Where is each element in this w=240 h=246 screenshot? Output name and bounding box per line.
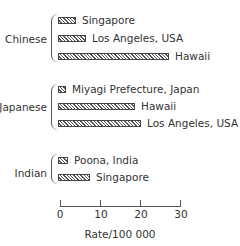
x-tick <box>140 200 141 206</box>
bar <box>58 103 135 110</box>
bar-label: Poona, India <box>74 154 138 166</box>
bar-label: Singapore <box>96 171 149 183</box>
bar <box>58 86 66 93</box>
group-label: Indian <box>15 167 47 179</box>
bar-label: Hawaii <box>175 50 210 62</box>
group-label: Chinese <box>5 33 47 45</box>
x-axis-line <box>60 206 181 207</box>
bar <box>58 35 86 42</box>
bar-label: Miyagi Prefecture, Japan <box>72 83 199 95</box>
bar <box>58 17 76 24</box>
bar-label: Los Angeles, USA <box>92 32 183 44</box>
bar <box>58 157 68 164</box>
x-tick <box>180 200 181 206</box>
bar <box>58 120 141 127</box>
bar-label: Los Angeles, USA <box>147 117 238 129</box>
bar <box>58 174 90 181</box>
bar-label: Hawaii <box>141 100 176 112</box>
x-axis-label: Rate/100 000 <box>60 228 180 240</box>
group-brace <box>51 14 58 62</box>
x-tick-label: 10 <box>91 208 111 220</box>
group-brace <box>51 84 58 130</box>
x-tick-label: 20 <box>131 208 151 220</box>
x-tick-label: 0 <box>50 208 70 220</box>
bar-label: Singapore <box>82 14 135 26</box>
group-label: Japanese <box>0 101 47 113</box>
x-tick-label: 30 <box>171 208 191 220</box>
bar <box>58 53 169 60</box>
group-brace <box>51 154 58 184</box>
x-tick <box>60 200 61 206</box>
x-tick <box>100 200 101 206</box>
